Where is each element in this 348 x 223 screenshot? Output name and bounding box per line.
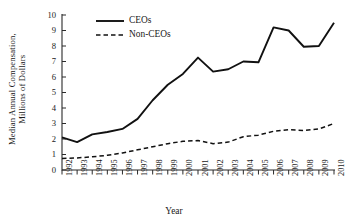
y-axis-tick-label: 6 [40,73,56,82]
y-axis-tick-label: 8 [40,42,56,51]
x-axis-tick-label: 2009 [322,159,330,176]
y-axis-tick-label: 3 [40,119,56,128]
legend-label-ceos: CEOs [129,16,151,25]
x-axis-tick-label: 1994 [96,159,104,176]
series-line-non-ceos [62,124,334,159]
x-axis-tick-label: 2007 [292,159,300,176]
x-axis-tick-label: 1997 [141,159,149,176]
y-axis-tick-label: 9 [40,26,56,35]
x-axis-tick-label: 1995 [111,159,119,176]
y-axis-title-line-1: Median Annual Compensation, [7,33,17,145]
y-axis-tick-label: 0 [40,166,56,175]
x-axis-tick-label: 2003 [232,159,240,176]
x-axis-tick-label: 2001 [202,159,210,176]
x-axis-tick-label: 2002 [217,159,225,176]
y-axis-title: Median Annual Compensation, Millions of … [0,0,34,178]
chart-figure: Median Annual Compensation, Millions of … [0,0,348,223]
series-line-ceos [62,23,334,142]
y-axis-tick-label: 5 [40,88,56,97]
y-axis-tick-label: 10 [40,11,56,20]
x-axis-tick-label: 2008 [307,159,315,176]
x-axis-tick-label: 2010 [338,159,346,176]
x-axis-tick-label: 2005 [262,159,270,176]
x-axis-tick-label: 1996 [126,159,134,176]
y-axis-tick-label: 2 [40,135,56,144]
x-axis-tick-label: 1993 [81,159,89,176]
x-axis-tick-label: 2006 [277,159,285,176]
x-axis-title: Year [0,206,348,216]
y-axis-title-line-2: Millions of Dollars [17,33,27,145]
y-axis-tick-label: 7 [40,57,56,66]
x-axis-tick-label: 1992 [66,159,74,176]
x-axis-tick-label: 1999 [171,159,179,176]
x-axis-tick-label: 2000 [186,159,194,176]
x-axis-tick-label: 1998 [156,159,164,176]
legend-label-non-ceos: Non-CEOs [129,30,171,39]
x-axis-tick-label: 2004 [247,159,255,176]
y-axis-tick-label: 4 [40,104,56,113]
y-axis-tick-label: 1 [40,150,56,159]
